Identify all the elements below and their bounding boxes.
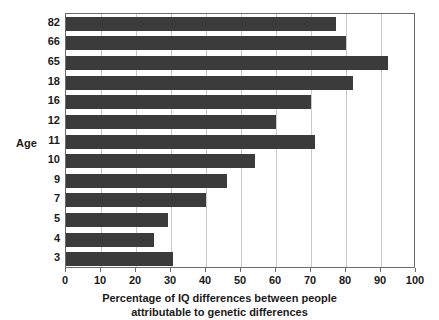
x-axis-tick-mark: [170, 268, 171, 272]
bar-row: [66, 174, 414, 188]
bar-row: [66, 154, 414, 168]
x-axis-tick-label: 80: [325, 274, 365, 286]
x-axis-tick-label: 60: [255, 274, 295, 286]
y-axis-tick-label: 66: [0, 36, 60, 47]
bar: [66, 154, 255, 168]
bar: [66, 252, 173, 266]
x-axis-title: Percentage of IQ differences between peo…: [0, 291, 439, 319]
x-axis-tick-mark: [240, 268, 241, 272]
bar-row: [66, 115, 414, 129]
y-axis-tick-label: 65: [0, 56, 60, 67]
x-axis-tick-label: 30: [150, 274, 190, 286]
bar-row: [66, 17, 414, 31]
y-axis-tick-label: 5: [0, 213, 60, 224]
bar-row: [66, 36, 414, 50]
x-axis-tick-label: 20: [115, 274, 155, 286]
x-axis-tick-label: 50: [220, 274, 260, 286]
bar-row: [66, 213, 414, 227]
bar-row: [66, 233, 414, 247]
x-axis-tick-mark: [100, 268, 101, 272]
bars-layer: [66, 14, 414, 267]
x-axis-tick-mark: [345, 268, 346, 272]
iq-heritability-bar-chart: Age 826665181612111097543 01020304050607…: [0, 0, 439, 320]
x-axis-tick-mark: [415, 268, 416, 272]
bar-row: [66, 76, 414, 90]
x-axis-tick-label: 0: [45, 274, 85, 286]
bar: [66, 95, 311, 109]
y-axis-tick-label: 11: [0, 135, 60, 146]
bar-row: [66, 193, 414, 207]
y-axis-tick-labels: 826665181612111097543: [0, 13, 60, 268]
x-axis-tick-label: 40: [185, 274, 225, 286]
bar: [66, 76, 353, 90]
bar: [66, 233, 154, 247]
x-axis-tick-mark: [205, 268, 206, 272]
bar: [66, 193, 206, 207]
x-axis-title-line-1: Percentage of IQ differences between peo…: [0, 291, 439, 305]
y-axis-tick-label: 10: [0, 154, 60, 165]
y-axis-tick-label: 9: [0, 174, 60, 185]
x-axis-tick-mark: [310, 268, 311, 272]
y-axis-tick-label: 12: [0, 115, 60, 126]
x-axis-tick-label: 90: [360, 274, 400, 286]
bar-row: [66, 135, 414, 149]
x-axis-tick-mark: [275, 268, 276, 272]
x-axis-tick-label: 70: [290, 274, 330, 286]
x-axis-tick-mark: [380, 268, 381, 272]
y-axis-tick-label: 16: [0, 95, 60, 106]
plot-area: [65, 13, 415, 268]
y-axis-tick-label: 18: [0, 76, 60, 87]
bar: [66, 17, 336, 31]
bar: [66, 174, 227, 188]
x-axis-tick-label: 10: [80, 274, 120, 286]
x-axis-tick-label: 100: [395, 274, 435, 286]
x-axis-title-line-2: attributable to genetic differences: [0, 305, 439, 319]
bar: [66, 135, 315, 149]
bar: [66, 36, 346, 50]
bar-row: [66, 95, 414, 109]
y-axis-tick-label: 4: [0, 233, 60, 244]
y-axis-tick-label: 82: [0, 17, 60, 28]
x-axis-tick-mark: [65, 268, 66, 272]
bar: [66, 213, 168, 227]
x-axis-tick-labels: 0102030405060708090100: [65, 268, 415, 286]
y-axis-tick-label: 3: [0, 252, 60, 263]
bar-row: [66, 252, 414, 266]
bar: [66, 56, 388, 70]
y-axis-tick-label: 7: [0, 193, 60, 204]
bar: [66, 115, 276, 129]
bar-row: [66, 56, 414, 70]
x-axis-tick-mark: [135, 268, 136, 272]
